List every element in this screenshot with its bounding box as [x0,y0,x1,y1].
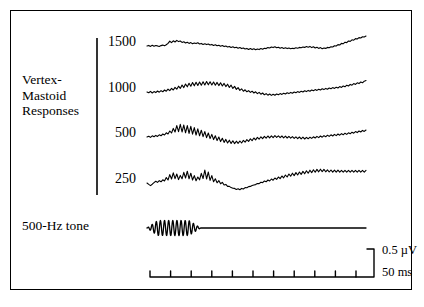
response-axis-label-line1: Vertex- [22,72,79,88]
response-traces-group [147,36,366,190]
trace-label-250: 250 [88,171,136,187]
response-trace-500 [147,124,366,143]
response-trace-1000 [147,81,366,96]
stimulus-label: 500-Hz tone [22,218,89,234]
trace-label-1500: 1500 [88,34,136,50]
time-scale-label: 50 ms [382,265,412,279]
scale-bar-bracket [356,249,374,277]
stimulus-tone-trace [147,221,366,236]
time-axis-group [150,271,356,277]
amplitude-scale-label: 0.5 µV [382,243,417,257]
response-axis-label-line2: Mastoid [22,88,79,104]
response-trace-1500 [147,36,366,50]
response-axis-label-line3: Responses [22,103,79,119]
time-axis-with-ticks [150,271,356,277]
scale-bar-group [356,249,374,277]
response-axis-label: Vertex- Mastoid Responses [22,72,79,119]
plot-canvas [0,0,424,307]
figure-root: Vertex- Mastoid Responses 1500 1000 500 … [0,0,424,307]
stimulus-trace-group [147,221,366,236]
response-trace-250 [147,169,366,190]
trace-label-500: 500 [88,125,136,141]
trace-label-1000: 1000 [88,80,136,96]
